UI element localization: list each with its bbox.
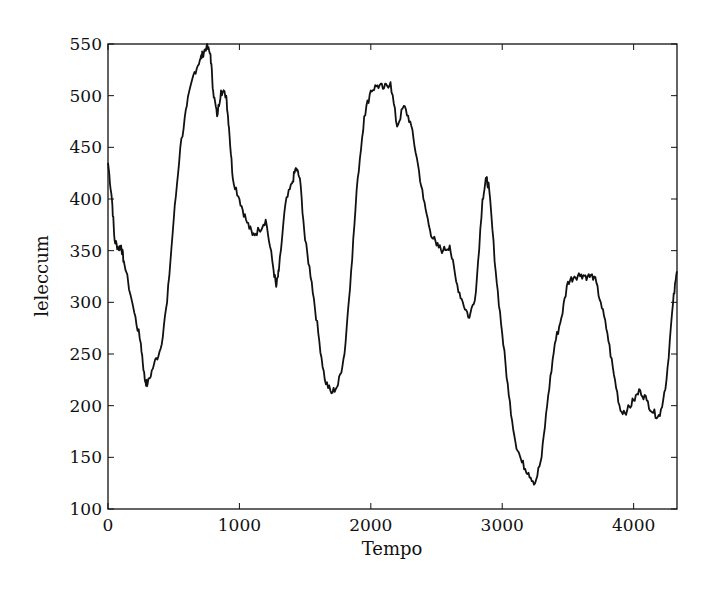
x-tick-label: 2000 [349, 515, 392, 535]
y-tick-label: 200 [70, 396, 102, 416]
data-series [108, 44, 677, 485]
x-tick-label: 3000 [481, 515, 524, 535]
leleccum-line [108, 44, 677, 485]
x-axis-label: Tempo [362, 538, 423, 559]
x-tick-label: 1000 [218, 515, 261, 535]
y-tick-label: 250 [70, 344, 102, 364]
y-tick-label: 300 [70, 292, 102, 312]
y-tick-label: 550 [70, 34, 102, 54]
y-tick-label: 450 [70, 137, 102, 157]
y-axis-label: leleccum [31, 235, 52, 317]
x-tick-label: 4000 [612, 515, 655, 535]
y-tick-label: 100 [70, 499, 102, 519]
y-tick-label: 400 [70, 189, 102, 209]
y-tick-label: 500 [70, 86, 102, 106]
line-chart: 01000200030004000 1001502002503003504004… [0, 0, 712, 593]
y-tick-label: 350 [70, 241, 102, 261]
x-tick-label: 0 [103, 515, 114, 535]
y-tick-label: 150 [70, 447, 102, 467]
